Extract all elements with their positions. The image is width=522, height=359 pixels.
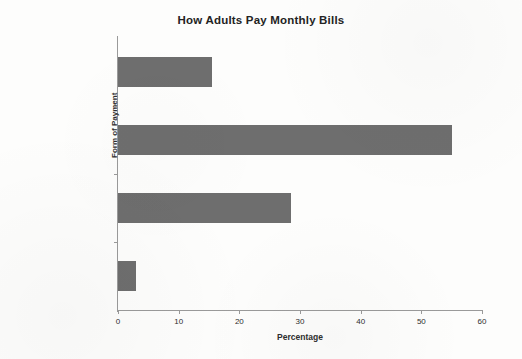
x-axis-tick-20 (239, 310, 240, 314)
x-axis-tick-label-50: 50 (401, 317, 441, 326)
bar-cash[interactable] (118, 57, 212, 87)
bar-chart-figure: How Adults Pay Monthly Bills Form of Pay… (0, 0, 522, 359)
x-axis-title: Percentage (118, 332, 482, 342)
bar-other-dont-know[interactable] (118, 261, 136, 291)
bar-row-electronic-online: Electronic/online (118, 174, 482, 242)
y-axis-tick-3 (114, 242, 118, 243)
x-axis-tick-label-60: 60 (462, 317, 502, 326)
x-axis-tick-50 (421, 310, 422, 314)
x-axis-tick-60 (482, 310, 483, 314)
x-axis-tick-label-30: 30 (280, 317, 320, 326)
x-axis-tick-0 (118, 310, 119, 314)
bar-row-other-dont-know: Other/don't know (118, 242, 482, 310)
chart-title: How Adults Pay Monthly Bills (0, 14, 522, 26)
x-axis-tick-label-10: 10 (159, 317, 199, 326)
x-axis-tick-30 (300, 310, 301, 314)
plot-area: Form of Payment Cash Check Electronic/on… (118, 38, 482, 310)
bar-row-check: Check (118, 106, 482, 174)
x-axis-tick-40 (361, 310, 362, 314)
bar-check[interactable] (118, 125, 452, 155)
bar-electronic-online[interactable] (118, 193, 291, 223)
x-axis-tick-label-0: 0 (98, 317, 138, 326)
bar-row-cash: Cash (118, 38, 482, 106)
x-axis-tick-10 (179, 310, 180, 314)
x-axis-tick-label-20: 20 (219, 317, 259, 326)
y-axis-tick-1 (114, 106, 118, 107)
x-axis-tick-label-40: 40 (341, 317, 381, 326)
y-axis-tick-2 (114, 174, 118, 175)
